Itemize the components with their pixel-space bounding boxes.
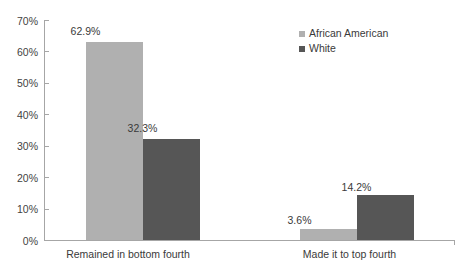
y-tick-label-0: 0%	[0, 236, 38, 247]
category-label-remained-bottom-fourth: Remained in bottom fourth	[43, 249, 213, 260]
bar-chart: 70% 60% 50% 40% 30% 20% 10% 0% 62.9% 32.…	[0, 0, 460, 274]
legend-item-african-american[interactable]: African American	[299, 26, 388, 41]
y-tick-label-20: 20%	[0, 173, 38, 184]
category-label-made-it-top-fourth: Made it to top fourth	[272, 249, 427, 260]
legend-label-african-american: African American	[309, 28, 388, 39]
x-axis-line	[44, 240, 455, 241]
plot-area	[44, 20, 455, 240]
bar-top-fourth-african-american[interactable]	[300, 229, 357, 240]
y-tick-label-30: 30%	[0, 141, 38, 152]
value-label-top-fourth-white: 14.2%	[328, 182, 385, 193]
bar-remained-bottom-white[interactable]	[143, 139, 200, 241]
value-label-top-fourth-african-american: 3.6%	[271, 215, 328, 226]
y-tick-label-60: 60%	[0, 47, 38, 58]
value-label-remained-bottom-white: 32.3%	[114, 123, 171, 134]
y-tick-label-50: 50%	[0, 78, 38, 89]
bar-top-fourth-white[interactable]	[357, 195, 414, 240]
value-label-remained-bottom-african-american: 62.9%	[57, 26, 114, 37]
legend-swatch-white	[299, 46, 305, 52]
bar-remained-bottom-african-american[interactable]	[86, 42, 143, 240]
legend: African American White	[299, 26, 388, 56]
legend-label-white: White	[309, 43, 336, 54]
y-tick-label-10: 10%	[0, 204, 38, 215]
x-axis-end-tick	[454, 240, 455, 245]
legend-swatch-african-american	[299, 31, 305, 37]
y-tick-label-70: 70%	[0, 16, 38, 27]
y-tick-label-40: 40%	[0, 110, 38, 121]
legend-item-white[interactable]: White	[299, 41, 388, 56]
